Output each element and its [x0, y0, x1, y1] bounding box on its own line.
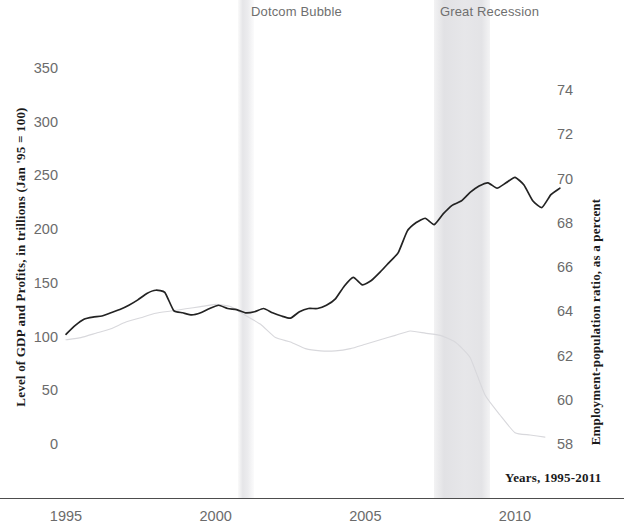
y-axis-right-tick-60: 60 [557, 392, 591, 408]
plot-area [0, 0, 624, 526]
y-axis-left-tick-0: 0 [16, 436, 58, 452]
series-line-gdp-and-profits [66, 177, 560, 334]
y-axis-right-tick-70: 70 [557, 171, 591, 187]
y-axis-right-tick-58: 58 [557, 436, 591, 452]
chart-container: Dotcom Bubble Great Recession 0501001502… [0, 0, 624, 526]
y-axis-right-tick-68: 68 [557, 215, 591, 231]
y-axis-right-tick-62: 62 [557, 348, 591, 364]
x-axis-tick-1995: 1995 [31, 508, 101, 524]
y-axis-right-tick-74: 74 [557, 82, 591, 98]
y-axis-left-title: Level of GDP and Profits, in trillions (… [13, 97, 29, 417]
x-axis-tick-2000: 2000 [181, 508, 251, 524]
y-axis-right-tick-72: 72 [557, 126, 591, 142]
y-axis-right-title: Employment-population ratio, as a percen… [588, 172, 604, 472]
y-axis-left-tick-350: 350 [16, 60, 58, 76]
y-axis-right-tick-66: 66 [557, 259, 591, 275]
series-line-employment-population-ratio [66, 304, 545, 437]
x-axis-rule [0, 498, 624, 499]
x-axis-tick-2005: 2005 [330, 508, 400, 524]
y-axis-right-tick-64: 64 [557, 303, 591, 319]
x-axis-tick-2010: 2010 [480, 508, 550, 524]
x-axis-title: Years, 1995-2011 [505, 470, 601, 486]
